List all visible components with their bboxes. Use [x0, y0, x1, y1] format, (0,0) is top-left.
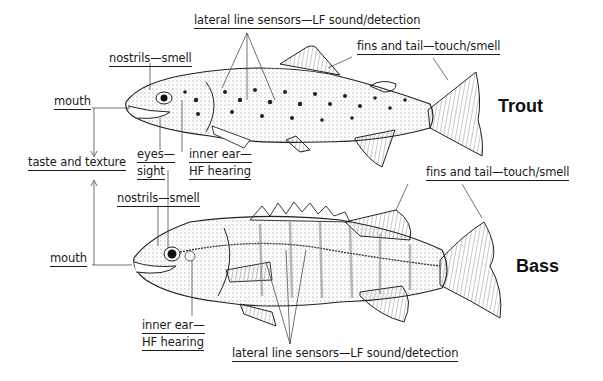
trout-title: Trout: [498, 96, 543, 117]
diagram-artwork: [0, 0, 603, 381]
trout-inner-ear-label: inner ear—: [189, 148, 252, 163]
trout-sight-label: sight: [137, 165, 165, 180]
bass-nostrils-label: nostrils—smell: [117, 192, 200, 207]
trout-mouth-label: mouth: [54, 95, 91, 110]
trout-hf-hearing-label: HF hearing: [189, 165, 251, 180]
trout-eyes-label: eyes—: [137, 148, 175, 163]
trout-nostrils-label: nostrils—smell: [109, 52, 192, 67]
bass-hf-hearing-label: HF hearing: [142, 336, 204, 351]
bass-title: Bass: [516, 256, 559, 277]
bass-lateral-line-label: lateral line sensors—LF sound/detection: [232, 347, 458, 362]
bass-inner-ear-label: inner ear—: [142, 319, 205, 334]
taste-texture-label: taste and texture: [28, 156, 126, 171]
bass-fins-tail-label: fins and tail—touch/smell: [426, 166, 569, 181]
bass-illustration: [134, 202, 501, 326]
trout-lateral-line-label: lateral line sensors—LF sound/detection: [194, 14, 420, 29]
trout-fins-tail-label: fins and tail—touch/smell: [357, 40, 500, 55]
bass-mouth-label: mouth: [50, 252, 87, 267]
